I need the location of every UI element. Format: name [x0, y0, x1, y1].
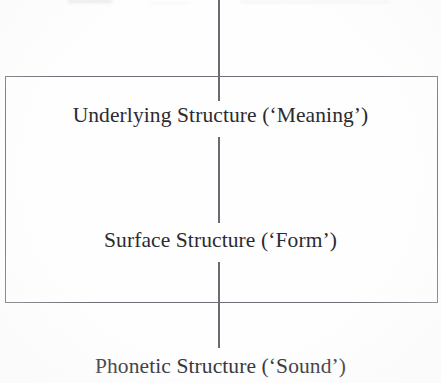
vertical-derivation-line-segment-bottom — [218, 262, 220, 348]
vertical-derivation-line-segment-middle — [218, 137, 220, 223]
level-label-surface-structure: Surface Structure (‘Form’) — [0, 230, 441, 252]
scan-artifact — [68, 0, 112, 5]
level-label-underlying-structure: Underlying Structure (‘Meaning’) — [0, 105, 441, 127]
scan-artifact — [150, 2, 190, 5]
level-label-phonetic-structure: Phonetic Structure (‘Sound’) — [0, 356, 441, 378]
vertical-derivation-line-segment-top — [218, 0, 220, 101]
structure-diagram: Underlying Structure (‘Meaning’) Surface… — [0, 0, 441, 383]
scan-artifact — [240, 1, 390, 5]
